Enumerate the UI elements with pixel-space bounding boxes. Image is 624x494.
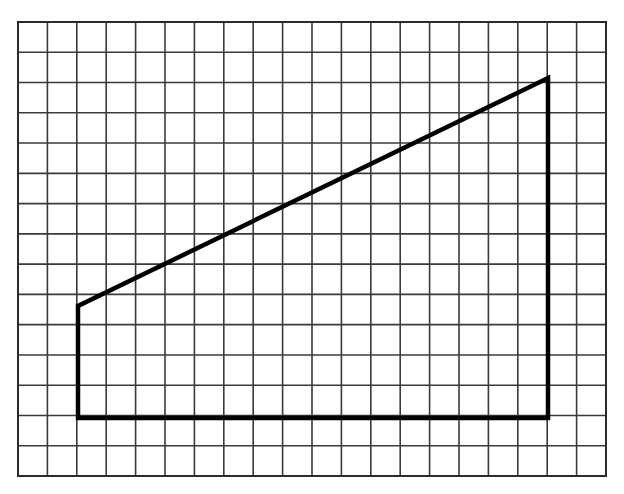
figure-svg — [0, 0, 624, 494]
graph-paper-grid — [18, 22, 606, 476]
figure-canvas — [0, 0, 624, 494]
